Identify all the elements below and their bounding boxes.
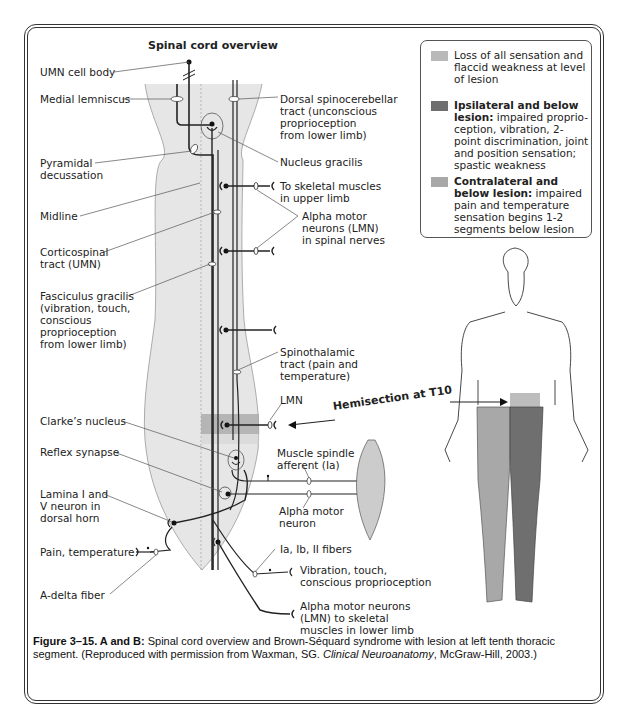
lesion-band: [201, 414, 259, 434]
label-reflex-synapse: Reflex synapse: [40, 446, 119, 458]
label-a-delta-fiber: A-delta fiber: [40, 589, 105, 601]
label-clarkes-nucleus: Clarke’s nucleus: [40, 415, 126, 427]
label-corticospinal-tract: Corticospinal tract (UMN): [40, 246, 108, 270]
legend-item-lesion-level: Loss of all sensation and flaccid weakne…: [431, 49, 589, 85]
label-dorsal-spinocerebellar: Dorsal spinocerebellar tract (unconsciou…: [280, 93, 398, 141]
label-umn-cell-body: UMN cell body: [40, 66, 115, 78]
label-lamina-neuron: Lamina I and V neuron in dorsal horn: [40, 488, 108, 524]
label-spinothalamic: Spinothalamic tract (pain and temperatur…: [280, 346, 358, 382]
label-vibration-touch: Vibration, touch, conscious propriocepti…: [300, 564, 431, 588]
label-lmn: LMN: [280, 394, 303, 406]
diagram-title: Spinal cord overview: [148, 39, 278, 52]
legend-item-contralateral: Contralateral and below lesion: impaired…: [431, 175, 589, 235]
label-alpha-motor-spinal: Alpha motor neurons (LMN) in spinal nerv…: [302, 210, 385, 246]
spinal-cord-outline: [144, 84, 262, 570]
label-medial-lemniscus: Medial lemniscus: [40, 93, 130, 105]
label-pain-temperature: Pain, temperature: [40, 546, 135, 558]
label-alpha-motor-lower: Alpha motor neurons (LMN) to skeletal mu…: [300, 600, 414, 636]
figure-caption: Figure 3–15. A and B: Spinal cord overvi…: [33, 635, 598, 661]
muscle-spindle: [356, 440, 384, 540]
label-skeletal-upper-limb: To skeletal muscles in upper limb: [280, 180, 381, 204]
label-alpha-motor-neuron: Alpha motor neuron: [279, 505, 344, 529]
legend-swatch-light: [431, 51, 448, 61]
label-fibers: Ia, Ib, II fibers: [280, 543, 352, 555]
right-leg-ipsilateral: [510, 407, 543, 602]
legend-text: Contralateral and below lesion: impaired…: [454, 175, 589, 235]
left-leg-contralateral: [477, 407, 510, 602]
legend: Loss of all sensation and flaccid weakne…: [420, 40, 592, 238]
legend-swatch-medium: [431, 177, 448, 187]
label-nucleus-gracilis: Nucleus gracilis: [280, 156, 363, 168]
label-midline: Midline: [40, 210, 78, 222]
legend-item-ipsilateral: Ipsilateral and below lesion: impaired p…: [431, 99, 589, 171]
label-muscle-spindle: Muscle spindle afferent (Ia): [277, 447, 354, 471]
label-pyramidal-decussation: Pyramidal decussation: [40, 157, 103, 181]
legend-text: Loss of all sensation and flaccid weakne…: [454, 49, 589, 85]
legend-text: Ipsilateral and below lesion: impaired p…: [454, 99, 589, 171]
legend-swatch-dark: [431, 101, 448, 111]
label-fasciculus-gracilis: Fasciculus gracilis (vibration, touch, c…: [40, 290, 134, 350]
